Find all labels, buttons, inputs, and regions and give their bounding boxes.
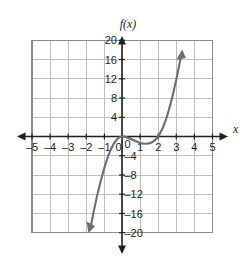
x-tick-label: 5 bbox=[209, 141, 215, 153]
coordinate-plane-figure: –5 –4 –3 –2 –1 0 1 2 3 4 5 20 16 12 8 4 … bbox=[0, 0, 247, 258]
y-tick-label: 12 bbox=[105, 73, 117, 85]
x-tick-label: –2 bbox=[80, 141, 92, 153]
curve-end-arrowhead bbox=[176, 50, 186, 60]
x-tick-label: –4 bbox=[44, 141, 56, 153]
y-axis-bottom-arrowhead bbox=[118, 246, 126, 255]
x-tick-labels: –5 –4 –3 –2 –1 0 1 2 3 4 5 bbox=[26, 141, 216, 153]
y-tick-label: 20 bbox=[105, 34, 117, 46]
y-tick-label: –12 bbox=[125, 188, 143, 200]
y-tick-label: –4 bbox=[125, 150, 137, 162]
x-tick-label: 3 bbox=[173, 141, 179, 153]
y-tick-label: –20 bbox=[125, 227, 143, 239]
graph-screenshot: –5 –4 –3 –2 –1 0 1 2 3 4 5 20 16 12 8 4 … bbox=[0, 0, 247, 258]
x-tick-label: 2 bbox=[155, 141, 161, 153]
x-axis-left-arrowhead bbox=[17, 133, 26, 141]
y-axis-label: f(x) bbox=[120, 17, 137, 31]
y-tick-label: 16 bbox=[105, 54, 117, 66]
x-axis-right-arrowhead bbox=[220, 133, 229, 141]
y-tick-label: 4 bbox=[111, 111, 117, 123]
y-tick-label: –8 bbox=[125, 169, 137, 181]
x-axis-label: x bbox=[232, 122, 239, 136]
x-tick-label-zero: 0 bbox=[116, 141, 122, 153]
x-tick-label: –5 bbox=[26, 141, 38, 153]
y-tick-label: 8 bbox=[111, 92, 117, 104]
x-tick-label: –3 bbox=[62, 141, 74, 153]
x-tick-label: 4 bbox=[191, 141, 197, 153]
x-tick-label: –1 bbox=[98, 141, 110, 153]
y-tick-label: –16 bbox=[125, 208, 143, 220]
